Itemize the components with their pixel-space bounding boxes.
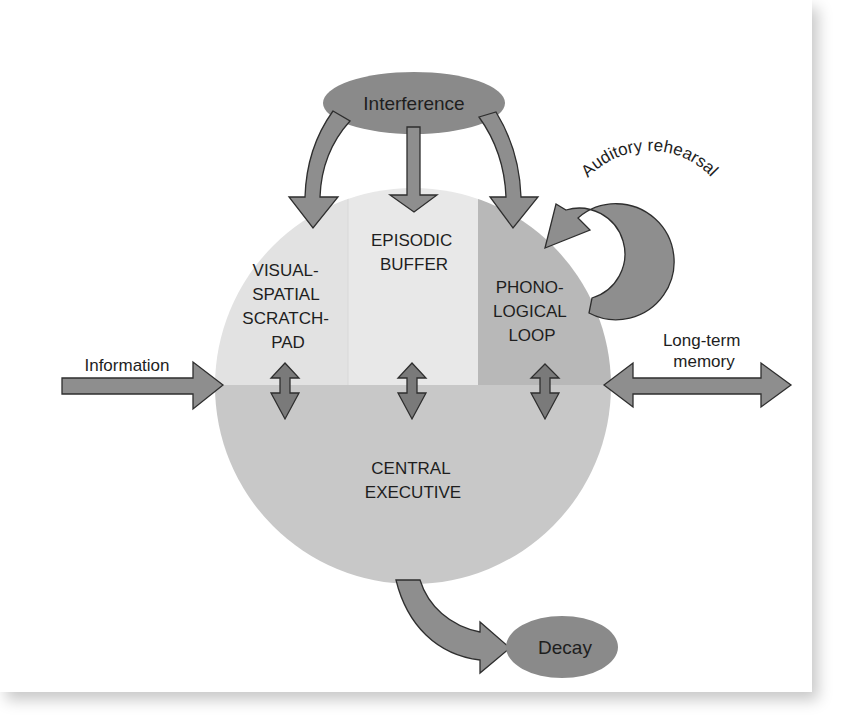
working-memory-diagram: Interference Auditory rehearsal Informat… bbox=[0, 0, 856, 724]
arrow-to-episodic-buffer bbox=[390, 127, 437, 212]
interference-label: Interference bbox=[363, 93, 464, 114]
auditory-rehearsal-label: Auditory rehearsal bbox=[577, 136, 721, 181]
long-term-memory-label: Long-term memory bbox=[663, 331, 745, 371]
information-label: Information bbox=[84, 356, 169, 375]
interference-arrows bbox=[289, 111, 538, 228]
interference-node: Interference bbox=[323, 72, 505, 134]
information-arrow: Information bbox=[62, 356, 223, 409]
decay-arrow bbox=[396, 580, 510, 673]
decay-node: Decay bbox=[506, 616, 618, 678]
long-term-memory-arrow: Long-term memory bbox=[604, 331, 791, 407]
decay-label: Decay bbox=[538, 637, 592, 658]
